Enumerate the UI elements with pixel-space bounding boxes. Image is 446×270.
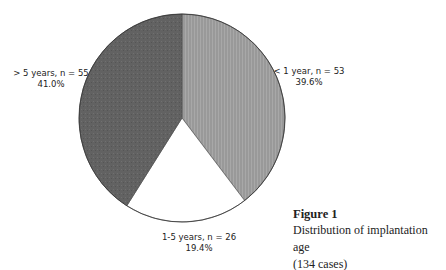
slice-label-mid: 1-5 years, n = 26 19.4% (158, 232, 240, 254)
figure-title: Figure 1 (293, 207, 446, 222)
slice-label-mid-name: 1-5 years, n = 26 (158, 232, 240, 243)
slice-label-gt5-name: > 5 years, n = 55 (12, 68, 90, 79)
caption-line-2: (134 cases) (293, 256, 446, 270)
figure: < 1 year, n = 53 39.6% > 5 years, n = 55… (0, 0, 446, 270)
caption-line-1: Distribution of implantation age (293, 222, 446, 256)
slice-label-lt1-name: < 1 year, n = 53 (268, 66, 350, 77)
slice-label-mid-pct: 19.4% (158, 243, 240, 254)
figure-caption: Figure 1 Distribution of implantation ag… (293, 207, 446, 270)
slice-label-gt5: > 5 years, n = 55 41.0% (12, 68, 90, 90)
slice-label-lt1: < 1 year, n = 53 39.6% (268, 66, 350, 88)
slice-label-gt5-pct: 41.0% (12, 79, 90, 90)
slice-label-lt1-pct: 39.6% (268, 77, 350, 88)
